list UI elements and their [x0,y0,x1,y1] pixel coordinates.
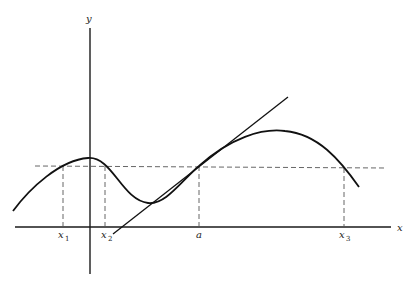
label-x3: x 3 [339,229,350,243]
label-a: a [196,229,202,240]
label-x3-sub: 3 [346,235,350,243]
label-x1-base: x [58,229,64,240]
label-x1-sub: 1 [65,235,69,243]
x-axis-label: x [397,222,403,233]
label-x3-base: x [339,229,345,240]
level-dashed-line [35,166,385,168]
function-diagram: x y x 1 x 2 a x 3 [0,0,415,287]
tangent-line [113,97,288,234]
y-axis-label: y [85,13,92,24]
label-x2-base: x [101,229,107,240]
label-a-base: a [196,229,202,240]
label-x2: x 2 [101,229,112,243]
label-x1: x 1 [58,229,69,243]
function-curve [13,130,359,211]
label-x2-sub: 2 [108,235,112,243]
